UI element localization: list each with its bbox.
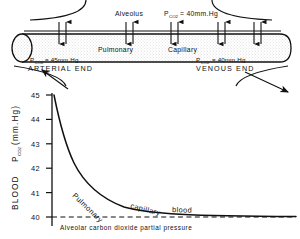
figure-svg: Alveolus P CO2 = 40mm.Hg Pulmonary Capil…	[0, 0, 300, 239]
alveolus-wall-left	[30, 0, 86, 20]
curve-label-word-2: capillary	[130, 201, 162, 217]
alveolar-reference-label: Alveolar carbon dioxide partial pressure	[60, 224, 192, 232]
venous-pressure-value: = 40mm.Hg	[212, 56, 246, 63]
capillary-label-left: Pulmonary	[98, 46, 133, 54]
arterial-pressure-value: = 45mm.Hg	[45, 56, 79, 63]
figure-root: Alveolus P CO2 = 40mm.Hg Pulmonary Capil…	[0, 0, 300, 239]
y-axis-title-blood: BLOOD	[11, 175, 20, 210]
capillary-label-right: Capillary	[168, 46, 197, 54]
curve-label: Pulmonary capillary blood	[71, 191, 193, 225]
alveolus-pressure-value: = 40mm.Hg	[180, 10, 218, 18]
alveolus-label: Alveolus	[115, 10, 143, 17]
alveolus-pressure-subscript: CO2	[169, 14, 179, 19]
capillary-arterial-cap	[12, 34, 32, 62]
alveolus-pressure-label: P CO2 = 40mm.Hg	[164, 10, 218, 19]
y-axis-tick-labels: 45 44 43 42 41 40	[31, 91, 40, 222]
y-tick-label-42: 42	[31, 164, 40, 173]
y-tick-label-40: 40	[31, 213, 40, 222]
y-axis-title-units: (mm.Hg)	[11, 105, 20, 145]
y-tick-label-44: 44	[31, 115, 40, 124]
curve-label-word-3: blood	[172, 205, 192, 215]
y-tick-label-45: 45	[31, 91, 40, 100]
pco2-chart: 45 44 43 42 41 40 BLOOD P CO2 (mm.Hg) Pu…	[11, 91, 296, 232]
y-axis-title-subscript: CO2	[17, 146, 22, 156]
arterial-end-label: ARTERIAL END	[28, 64, 93, 73]
venous-end-label: VENOUS END	[196, 64, 255, 73]
pulmonary-capillary-blood-curve	[54, 95, 296, 217]
y-tick-label-43: 43	[31, 140, 40, 149]
y-tick-label-41: 41	[31, 189, 40, 198]
venous-connector-arrow	[245, 72, 288, 92]
alveolus-wall-right	[212, 0, 272, 20]
capillary-venous-cap	[280, 34, 291, 62]
y-axis-title: BLOOD P CO2 (mm.Hg)	[11, 105, 22, 210]
y-axis-ticks	[46, 95, 52, 217]
alveolus-capillary-diagram: Alveolus P CO2 = 40mm.Hg Pulmonary Capil…	[12, 0, 291, 92]
curve-label-word-1: Pulmonary	[71, 191, 105, 225]
